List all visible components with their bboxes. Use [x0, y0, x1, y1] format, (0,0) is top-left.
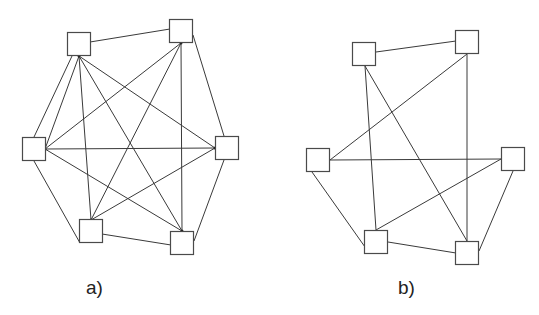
- graph-edge: [365, 66, 376, 230]
- graph-edge: [330, 159, 501, 160]
- graph-node-tl: [68, 33, 91, 56]
- graph-edge: [181, 43, 182, 231]
- graph-edge: [388, 242, 456, 253]
- graph-edge: [194, 160, 224, 241]
- panel-b-label: b): [398, 277, 415, 298]
- panel-b-graph: b): [307, 31, 525, 299]
- graph-edge: [312, 172, 365, 247]
- graph-edge: [45, 149, 182, 231]
- panel-a-anchors: [44, 42, 217, 233]
- graph-node-bl: [80, 220, 103, 243]
- panel-b-edges: [312, 41, 513, 253]
- graph-edge: [90, 29, 170, 42]
- panel-a-edges: [34, 29, 224, 245]
- graph-edge: [376, 159, 501, 230]
- graph-edge: [45, 43, 181, 149]
- graph-edge: [79, 56, 91, 220]
- graph-edge: [102, 234, 171, 245]
- graph-edge: [45, 148, 215, 149]
- panel-a-label: a): [86, 277, 103, 298]
- graph-edge: [34, 161, 80, 243]
- graph-edge: [479, 171, 513, 251]
- graph-edge: [34, 56, 72, 137]
- graph-node-tr: [456, 31, 479, 54]
- graph-edge: [365, 66, 467, 241]
- figure-canvas: a) b): [0, 0, 539, 315]
- graph-node-tr: [170, 20, 193, 43]
- graph-edge: [376, 41, 456, 52]
- graph-node-r: [216, 137, 239, 160]
- graph-edge: [330, 54, 467, 160]
- graph-node-br: [171, 232, 194, 255]
- graph-node-l: [307, 149, 330, 172]
- graph-edge: [193, 35, 224, 136]
- graph-node-tl: [353, 43, 376, 66]
- graph-node-bl: [365, 231, 388, 254]
- graph-node-l: [23, 138, 46, 161]
- graph-node-r: [502, 148, 525, 171]
- graph-node-br: [456, 242, 479, 265]
- panel-b-nodes: [307, 31, 525, 265]
- panel-a-complete-graph: a): [23, 20, 239, 299]
- panel-a-nodes: [23, 20, 239, 255]
